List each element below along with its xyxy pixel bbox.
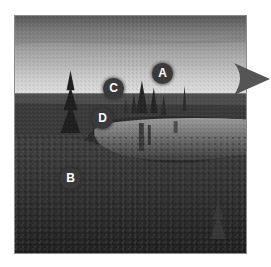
marker-d: D (92, 108, 113, 129)
arrow-right-icon (232, 62, 271, 96)
photo-scene (15, 16, 246, 253)
landscape-photo (14, 15, 247, 254)
marker-a: A (152, 63, 173, 84)
marker-b: B (60, 168, 81, 189)
arrow-shape (234, 63, 270, 95)
marker-c: C (103, 78, 124, 99)
